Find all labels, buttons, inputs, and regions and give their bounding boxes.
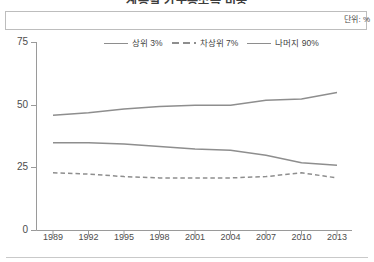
series-line-rest90 [53, 143, 337, 166]
x-tick-label-2007: 2007 [249, 232, 283, 242]
axis-lines [37, 42, 353, 231]
plot-area [0, 0, 374, 262]
x-tick-label-1989: 1989 [36, 232, 70, 242]
x-tick-label-1998: 1998 [143, 232, 177, 242]
y-tick-label-50: 50 [2, 99, 28, 110]
y-tick-label-75: 75 [2, 36, 28, 47]
y-tick-label-25: 25 [2, 161, 28, 172]
series-layer [53, 93, 337, 178]
x-tick-label-2010: 2010 [285, 232, 319, 242]
chart-figure: 계층별 가구총소득 비중 단위: % 상위 3% 차상위 7% 나머지 90% [0, 0, 374, 262]
x-tick-label-1995: 1995 [107, 232, 141, 242]
x-tick-label-1992: 1992 [72, 232, 106, 242]
axis-ticks [31, 43, 37, 231]
bottom-divider [6, 257, 368, 258]
x-tick-label-2001: 2001 [178, 232, 212, 242]
x-tick-label-2004: 2004 [214, 232, 248, 242]
y-tick-label-0: 0 [2, 224, 28, 235]
series-line-next7 [53, 173, 337, 178]
x-tick-label-2013: 2013 [320, 232, 354, 242]
series-line-top3 [53, 93, 337, 116]
